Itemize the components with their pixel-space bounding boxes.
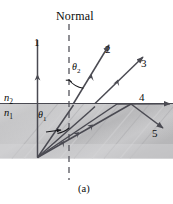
ray-label-3: 3 [141,58,147,69]
refractive-index-lower: n1 [4,108,13,121]
medium-lower-region [0,104,173,159]
ray-label-4: 4 [139,92,145,103]
angle-label-theta2: θ2 [72,62,80,75]
ray-label-1: 1 [34,37,40,48]
theta2-subscript: 2 [77,67,81,75]
refractive-index-upper-subscript: 2 [9,97,13,106]
figure-canvas [0,0,173,204]
angle-label-theta1: θ1 [38,110,46,123]
refractive-index-upper: n2 [4,93,13,106]
figure-caption: (a) [78,184,90,195]
theta1-subscript: 1 [43,115,47,123]
refractive-index-lower-subscript: 1 [9,112,13,121]
ray-label-5: 5 [152,128,158,139]
normal-label: Normal [56,10,94,22]
refraction-figure: Normal 1 2 3 4 5 n2 n1 θ2 θ1 (a) [0,0,173,204]
ray-label-2: 2 [105,44,111,55]
